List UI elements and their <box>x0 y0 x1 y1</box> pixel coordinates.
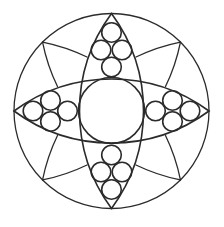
cluster-right <box>146 91 200 132</box>
central-circle <box>79 78 145 144</box>
small-circle <box>180 101 200 121</box>
petal-lines <box>43 42 181 180</box>
petal-line <box>43 136 58 180</box>
petal-line <box>43 165 87 180</box>
petal-line <box>166 42 181 86</box>
small-circle-clusters <box>23 23 200 200</box>
small-circle <box>112 40 132 60</box>
petal-line <box>166 136 181 180</box>
small-circle <box>23 101 43 121</box>
small-circle <box>163 112 183 132</box>
petal-line <box>43 42 58 86</box>
cluster-bottom <box>91 145 132 199</box>
small-circle <box>102 145 122 165</box>
cluster-top <box>91 23 132 77</box>
mandala-figure <box>0 0 224 227</box>
small-circle <box>163 91 183 111</box>
petal-line <box>136 165 180 180</box>
small-circle <box>112 162 132 182</box>
cluster-left <box>23 91 77 132</box>
small-circle <box>41 91 61 111</box>
small-circle <box>91 162 111 182</box>
small-circle <box>102 57 122 77</box>
small-circle <box>102 180 122 200</box>
petal-line <box>43 42 87 57</box>
small-circle <box>102 23 122 43</box>
small-circle <box>146 101 166 121</box>
petal-line <box>136 42 180 57</box>
small-circle <box>58 101 78 121</box>
small-circle <box>41 112 61 132</box>
small-circle <box>91 40 111 60</box>
